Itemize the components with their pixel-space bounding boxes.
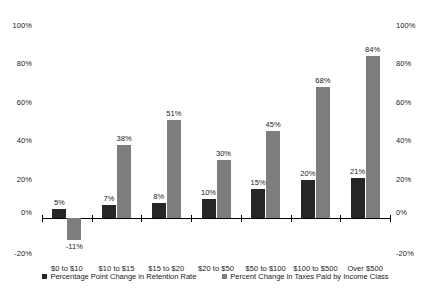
y-axis-right-tick: 80% [396,59,428,68]
bar [52,209,66,219]
y-axis-right-tick: 60% [396,98,428,107]
bar [266,131,280,218]
y-axis-right-tick: -20% [396,249,428,258]
bar [102,205,116,219]
bar [251,189,265,218]
bar [217,160,231,218]
bar-value-label: 5% [39,198,79,207]
bar [316,87,330,218]
legend-item-taxes: Percent Change in Taxes Paid by Income C… [222,272,388,281]
bar-value-label: -11% [54,242,94,251]
bar [152,203,166,218]
bar [301,180,315,219]
bar-chart: 100% 80% 60% 40% 20% 0% -20% 100% 80% 60… [0,0,431,296]
x-axis-tick [291,215,292,222]
legend-swatch-icon [42,274,47,279]
y-axis-left-tick: -20% [2,249,32,258]
bar [351,178,365,219]
x-axis-tick [42,215,43,222]
y-axis-left-tick: 60% [2,98,32,107]
x-axis-tick [92,215,93,222]
legend-label: Percentage Point Change in Retention Rat… [50,272,196,281]
bar-value-label: 68% [303,76,343,85]
y-axis-right-tick: 20% [396,175,428,184]
y-axis-left-tick: 40% [2,136,32,145]
y-axis-left-tick: 100% [2,21,32,30]
legend-swatch-icon [222,274,227,279]
bar [366,56,380,218]
legend-item-retention: Percentage Point Change in Retention Rat… [42,272,196,281]
bar-value-label: 30% [204,149,244,158]
bar-value-label: 38% [104,134,144,143]
y-axis-right-tick: 0% [396,208,428,217]
y-axis-right-tick: 40% [396,136,428,145]
bar-value-label: 45% [253,120,293,129]
bar-value-label: 51% [154,109,194,118]
bar [117,145,131,218]
bar-value-label: 84% [353,45,393,54]
bar [67,218,81,239]
y-axis-right-tick: 100% [396,21,428,30]
zero-baseline [42,218,390,219]
y-axis-left-tick: 80% [2,59,32,68]
bar [167,120,181,219]
x-axis-tick [390,215,391,222]
y-axis-left-tick: 20% [2,175,32,184]
chart-legend: Percentage Point Change in Retention Rat… [0,272,431,281]
x-axis-tick [141,215,142,222]
bar [202,199,216,218]
y-axis-left-tick: 0% [2,208,32,217]
plot-area: 5%-11%$0 to $107%38%$10 to $158%51%$15 t… [42,25,390,257]
x-axis-tick [340,215,341,222]
legend-label: Percent Change in Taxes Paid by Income C… [230,272,388,281]
x-axis-tick [241,215,242,222]
x-axis-tick [191,215,192,222]
